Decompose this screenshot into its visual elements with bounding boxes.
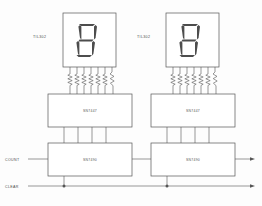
carry-out-arrow-icon (250, 157, 255, 160)
resistor-bank-units (68, 67, 114, 94)
display-label-tens: TIL302 (137, 35, 150, 39)
clear-label: CLEAR (5, 185, 19, 189)
bcd-bus-tens (167, 127, 209, 143)
counter-label-units: SN7490 (83, 158, 97, 162)
counter-label-tens: SN7490 (186, 158, 200, 162)
clear-bus-arrow-icon (250, 184, 255, 187)
segment-d-units (77, 55, 93, 57)
segment-a-units (79, 24, 95, 26)
segment-g-tens (181, 40, 196, 42)
segment-g-units (78, 40, 93, 42)
decoder-label-units: SN7447 (83, 109, 97, 113)
segment-d-tens (180, 55, 196, 57)
display-label-units: TIL302 (33, 35, 46, 39)
schematic-canvas: TIL302 (0, 0, 262, 206)
circuit-schematic: TIL302 (0, 0, 262, 206)
bcd-bus-units (64, 127, 106, 143)
resistor-bank-tens (171, 67, 217, 94)
junction-dot-tens (166, 185, 169, 188)
junction-dot-units (63, 185, 66, 188)
count-label: COUNT (5, 158, 20, 162)
decoder-label-tens: SN7447 (186, 109, 200, 113)
segment-a-tens (182, 24, 198, 26)
